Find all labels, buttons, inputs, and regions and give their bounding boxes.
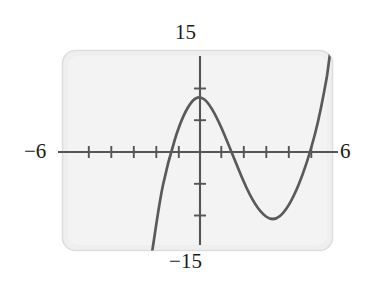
plot-area: [0, 0, 371, 289]
graph-figure: 15 −6 6 −15: [0, 0, 371, 289]
